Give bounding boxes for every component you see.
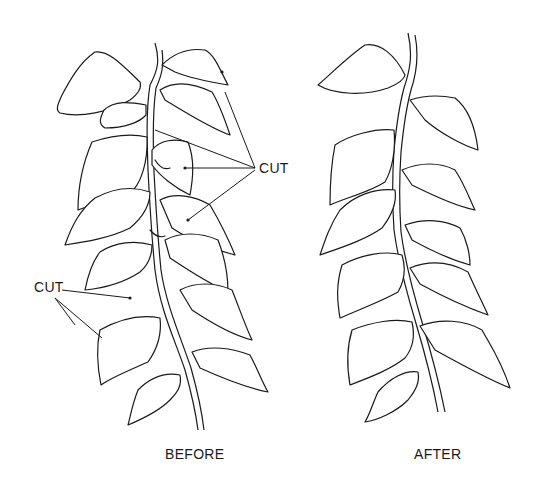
after-vine [318, 33, 510, 422]
before-vine [57, 43, 268, 430]
cut-label-left: CUT [34, 279, 64, 295]
cut-label-right: CUT [259, 160, 289, 176]
before-caption: BEFORE [165, 446, 224, 462]
vine-pruning-diagram [0, 0, 541, 488]
after-caption: AFTER [414, 446, 461, 462]
